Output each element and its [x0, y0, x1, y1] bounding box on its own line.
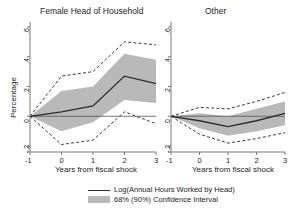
y-tick-label: .4 [23, 58, 30, 64]
y-tick-label: -.2 [23, 145, 30, 153]
x-tick-label: 3 [283, 156, 287, 165]
x-tick-label: 3 [154, 156, 158, 165]
y-tick-label: 0 [164, 119, 171, 123]
y-tick-label: .2 [23, 88, 30, 94]
legend-line-label: Log(Annual Hours Worked by Head) [114, 185, 235, 194]
legend-band-label: 68% (90%) Confidence Interval [114, 195, 218, 204]
figure-canvas: Female Head of Household Other Percentag… [0, 0, 293, 219]
y-tick-label: .6 [23, 28, 30, 34]
x-tick-label: -1 [166, 156, 173, 165]
confidence-band-68 [30, 54, 156, 131]
y-tick-label: -.2 [164, 145, 171, 153]
legend-band-swatch [88, 196, 110, 203]
x-tick-label: 2 [255, 156, 259, 165]
x-tick-label: 2 [123, 156, 127, 165]
y-tick-label: 0 [23, 119, 30, 123]
x-tick-label: 1 [91, 156, 95, 165]
y-tick-label: .2 [164, 88, 171, 94]
x-tick-label: 1 [226, 156, 230, 165]
x-tick-label: 0 [198, 156, 202, 165]
x-tick-label: -1 [25, 156, 32, 165]
x-tick-label: 0 [60, 156, 64, 165]
y-tick-label: .4 [164, 58, 171, 64]
legend-line-swatch [88, 190, 110, 191]
y-tick-label: .6 [164, 28, 171, 34]
